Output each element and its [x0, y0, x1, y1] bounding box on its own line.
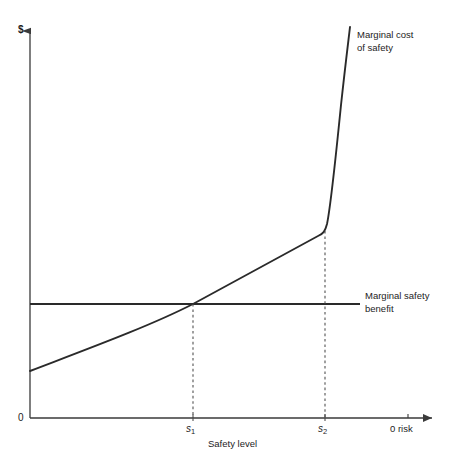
safety-cost-benefit-chart: $ 0 Marginal costof safety Marginal safe… [0, 0, 453, 465]
marginal-benefit-annotation: Marginal safetybenefit [365, 290, 429, 315]
origin-label: 0 [18, 412, 24, 425]
marginal-cost-annotation-line2: of safety [357, 42, 393, 53]
tick-label-s1: s1 [186, 423, 195, 439]
chart-canvas [0, 0, 453, 465]
tick-label-s2: s2 [318, 423, 327, 439]
marginal-cost-annotation-line1: Marginal cost [357, 29, 414, 40]
x-axis-right-label: 0 risk [390, 423, 413, 436]
marginal-cost-of-safety-curve [30, 27, 350, 371]
tick-label-s1-subscript: 1 [191, 427, 195, 436]
marginal-cost-annotation: Marginal costof safety [357, 29, 414, 54]
x-axis-title: Safety level [208, 438, 257, 451]
marginal-benefit-annotation-line2: benefit [365, 303, 394, 314]
y-axis-label: $ [18, 24, 24, 37]
marginal-benefit-annotation-line1: Marginal safety [365, 290, 429, 301]
tick-label-s2-subscript: 2 [323, 427, 327, 436]
